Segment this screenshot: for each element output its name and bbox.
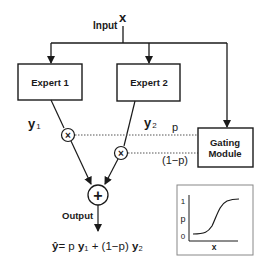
mixture-of-experts-diagram: Input x Expert 1 Expert 2 y1 y2 × ×: [0, 0, 269, 271]
y1-label: y1: [28, 116, 41, 131]
gating-module-box: Gating Module: [198, 128, 253, 167]
y2-label: y2: [144, 115, 157, 130]
input-label-group: Input x: [93, 10, 127, 31]
sum-input-arrows: [71, 141, 118, 184]
gating-label-line2: Module: [208, 148, 241, 159]
output-label: Output: [62, 210, 94, 221]
expert-1-box: Expert 1: [18, 64, 82, 100]
input-symbol: x: [119, 10, 127, 25]
inset-ylabel: p: [180, 214, 185, 224]
multiply-icon: ×: [65, 130, 71, 141]
expert-1-label: Expert 1: [31, 77, 69, 88]
inset-y-tick-0: 0: [181, 232, 186, 241]
sum-node: +: [88, 185, 108, 205]
one-minus-p-label: (1−p): [162, 154, 188, 166]
gating-label-line1: Gating: [210, 137, 240, 148]
multiply-icon: ×: [118, 148, 124, 159]
plus-icon: +: [93, 187, 102, 204]
multiply-node-1: ×: [62, 129, 75, 142]
p-label: p: [172, 121, 178, 133]
input-label: Input: [93, 20, 118, 31]
expert-2-box: Expert 2: [117, 64, 180, 101]
output-formula: ŷ= p y1 + (1−p) y2: [52, 240, 143, 253]
gating-signal-lines: [75, 135, 198, 153]
inset-xlabel: x: [212, 242, 217, 252]
multiply-node-2: ×: [115, 147, 128, 160]
inset-y-tick-1: 1: [181, 197, 186, 206]
gating-sigmoid-inset: 1 p 0 x: [177, 185, 253, 255]
expert-2-label: Expert 2: [130, 77, 168, 88]
